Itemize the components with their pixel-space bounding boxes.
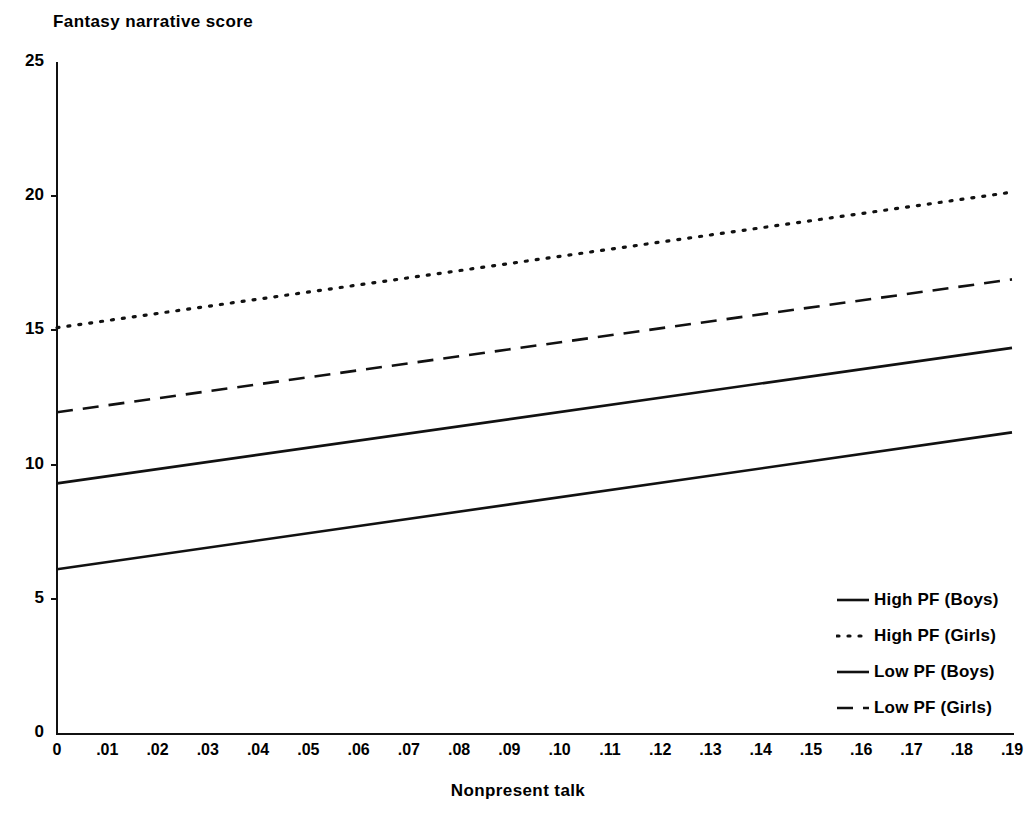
y-axis-title: Fantasy narrative score (53, 12, 253, 32)
series-line (57, 348, 1012, 484)
legend-label: Low PF (Girls) (874, 698, 992, 718)
legend-line-sample (836, 665, 870, 679)
x-tick-label: .16 (850, 741, 872, 759)
x-tick-label: .09 (498, 741, 520, 759)
legend-item: High PF (Boys) (836, 582, 1036, 618)
chart-figure: Fantasy narrative score 0510152025 0.01.… (0, 0, 1036, 817)
y-tick-label: 25 (8, 51, 44, 71)
legend-label: High PF (Boys) (874, 590, 999, 610)
x-tick-label: .06 (347, 741, 369, 759)
x-tick-label: .15 (800, 741, 822, 759)
legend-item: Low PF (Girls) (836, 690, 1036, 726)
chart-legend: High PF (Boys)High PF (Girls)Low PF (Boy… (836, 582, 1036, 726)
x-tick-label: .19 (1001, 741, 1023, 759)
y-tick-mark (51, 598, 57, 600)
series-line (57, 192, 1012, 328)
x-tick-label: .10 (549, 741, 571, 759)
y-tick-label: 0 (8, 722, 44, 742)
x-tick-label: .11 (599, 741, 620, 759)
legend-item: High PF (Girls) (836, 618, 1036, 654)
y-axis-line (56, 62, 58, 735)
legend-label: High PF (Girls) (874, 626, 996, 646)
series-line (57, 279, 1012, 412)
y-tick-label: 10 (8, 454, 44, 474)
series-line (57, 432, 1012, 569)
y-tick-mark (51, 195, 57, 197)
x-tick-label: .08 (448, 741, 470, 759)
x-tick-label: .02 (146, 741, 168, 759)
x-tick-label: .07 (398, 741, 420, 759)
x-tick-label: .17 (900, 741, 922, 759)
legend-line-sample (836, 629, 870, 643)
x-tick-label: .03 (197, 741, 219, 759)
x-tick-label: 0 (53, 741, 62, 759)
y-tick-mark (51, 464, 57, 466)
legend-label: Low PF (Boys) (874, 662, 995, 682)
y-tick-mark (51, 329, 57, 331)
x-tick-label: .05 (297, 741, 319, 759)
x-tick-label: .13 (699, 741, 721, 759)
x-axis-title: Nonpresent talk (0, 781, 1036, 801)
x-tick-label: .04 (247, 741, 269, 759)
x-tick-label: .18 (951, 741, 973, 759)
y-tick-label: 20 (8, 185, 44, 205)
x-axis-line (56, 733, 1014, 735)
legend-line-sample (836, 593, 870, 607)
legend-line-sample (836, 701, 870, 715)
x-tick-label: .01 (96, 741, 118, 759)
legend-item: Low PF (Boys) (836, 654, 1036, 690)
x-tick-label: .14 (750, 741, 772, 759)
y-tick-label: 5 (8, 588, 44, 608)
y-tick-label: 15 (8, 319, 44, 339)
x-tick-label: .12 (649, 741, 671, 759)
